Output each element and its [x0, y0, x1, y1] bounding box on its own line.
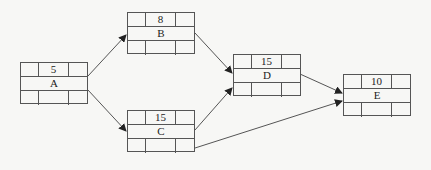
- duration-label: 8: [146, 13, 176, 26]
- ef-cell: [176, 111, 194, 124]
- es-cell: [344, 75, 362, 88]
- node-b: 8 B: [127, 12, 195, 54]
- float-cell: [146, 139, 176, 153]
- ef-cell: [69, 63, 87, 76]
- float-cell: [146, 41, 176, 55]
- ls-cell: [344, 103, 362, 117]
- ls-cell: [128, 41, 146, 55]
- edge-a-c: [88, 90, 126, 131]
- float-cell: [252, 83, 282, 97]
- ls-cell: [128, 139, 146, 153]
- ef-cell: [392, 75, 410, 88]
- lf-cell: [176, 139, 194, 153]
- lf-cell: [392, 103, 410, 117]
- activity-name: A: [21, 77, 87, 90]
- network-diagram: 5 A 8 B 15 C 15 D 10 E: [0, 0, 431, 170]
- edge-d-e: [300, 74, 342, 93]
- ef-cell: [176, 13, 194, 26]
- activity-name: B: [128, 27, 194, 40]
- lf-cell: [69, 91, 87, 105]
- ef-cell: [282, 55, 300, 68]
- duration-label: 15: [146, 111, 176, 124]
- activity-name: D: [234, 69, 300, 82]
- duration-label: 10: [362, 75, 392, 88]
- float-cell: [362, 103, 392, 117]
- edge-c-d: [195, 88, 232, 130]
- es-cell: [234, 55, 252, 68]
- node-a: 5 A: [20, 62, 88, 104]
- ls-cell: [234, 83, 252, 97]
- node-c: 15 C: [127, 110, 195, 152]
- duration-label: 15: [252, 55, 282, 68]
- es-cell: [128, 111, 146, 124]
- ls-cell: [21, 91, 39, 105]
- node-d: 15 D: [233, 54, 301, 96]
- es-cell: [128, 13, 146, 26]
- es-cell: [21, 63, 39, 76]
- edge-b-d: [195, 33, 232, 73]
- lf-cell: [282, 83, 300, 97]
- duration-label: 5: [39, 63, 69, 76]
- node-e: 10 E: [343, 74, 411, 116]
- lf-cell: [176, 41, 194, 55]
- activity-name: E: [344, 89, 410, 102]
- edge-a-b: [88, 35, 126, 76]
- edge-c-e: [195, 101, 342, 148]
- float-cell: [39, 91, 69, 105]
- activity-name: C: [128, 125, 194, 138]
